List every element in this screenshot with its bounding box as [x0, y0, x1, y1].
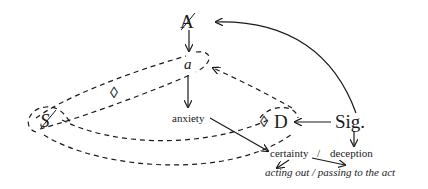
- node-D: D: [274, 112, 288, 131]
- node-sig: Sig.: [335, 112, 365, 131]
- dashed-S-to-D-upper: [62, 120, 268, 141]
- diamond-icon: ◊: [110, 85, 118, 101]
- dashed-loop-S: [28, 107, 72, 132]
- arrow-sig-to-A: [216, 22, 356, 113]
- node-A: A: [180, 12, 194, 31]
- dashed-D-to-a: [213, 68, 292, 108]
- label-deception: deception: [330, 148, 373, 159]
- label-acting-out-passing: acting out / passing to the act: [265, 167, 395, 178]
- label-certainty: certainty: [270, 148, 308, 159]
- label-slash: /: [317, 148, 320, 159]
- lacan-anxiety-diagram: A a S ◊ ◊ D Sig. anxiety certainty / dec…: [0, 0, 428, 189]
- diagram-lines: [0, 0, 428, 189]
- dashed-loop-a: [196, 52, 209, 72]
- node-a: a: [184, 57, 192, 72]
- arrow-certainty-to-passing: [312, 158, 345, 165]
- node-S-barred: S: [40, 111, 50, 130]
- label-anxiety: anxiety: [172, 113, 204, 124]
- diamond-icon: ◊: [260, 114, 268, 130]
- dashed-S-to-D-lower: [44, 134, 292, 165]
